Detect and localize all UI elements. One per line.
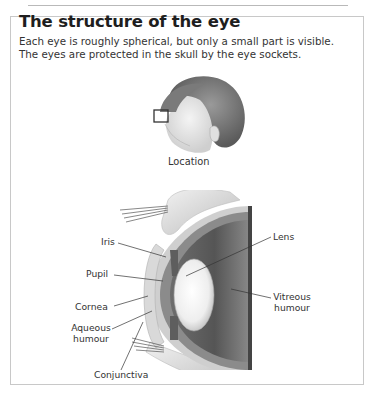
label-pupil: Pupil [86,268,108,279]
head-illustration [154,76,245,153]
label-lens: Lens [273,231,294,242]
label-vitreous-line-2: humour [270,302,314,313]
label-vitreous-line-1: Vitreous [270,291,314,302]
label-aqueous-humour: Aqueous humour [70,322,112,344]
label-vitreous-humour: Vitreous humour [270,291,314,313]
label-iris: Iris [101,236,115,247]
label-aqueous-line-1: Aqueous [70,322,112,333]
location-caption: Location [168,156,209,167]
eye-illustration [0,0,379,394]
label-aqueous-line-2: humour [70,333,112,344]
eye-cross-section [120,189,252,388]
label-conjunctiva: Conjunctiva [94,369,148,380]
label-cornea: Cornea [75,301,108,312]
